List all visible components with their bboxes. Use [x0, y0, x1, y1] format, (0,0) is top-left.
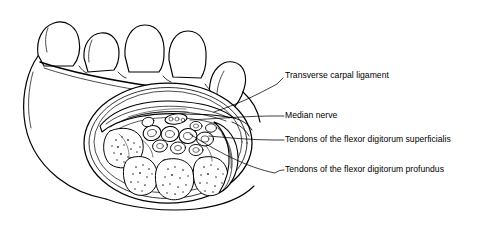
carpal-tunnel-figure: Transverse carpal ligament Median nerve … — [0, 0, 502, 229]
finger-3 — [125, 25, 164, 72]
carpal-bone-1 — [123, 156, 157, 195]
label-tendons-flexor-digitorum-profundus: Tendons of the flexor digitorum profundu… — [285, 165, 444, 174]
carpal-bone-group — [123, 156, 227, 199]
label-tendons-flexor-digitorum-superficialis: Tendons of the flexor digitorum superfic… — [285, 135, 451, 144]
finger-4 — [169, 31, 206, 78]
fdp-tendon-2 — [190, 121, 202, 130]
carpal-cross-section — [84, 83, 252, 203]
finger-2 — [84, 33, 119, 72]
label-median-nerve: Median nerve — [285, 111, 337, 120]
ulnar-border — [243, 92, 260, 122]
finger-1 — [38, 22, 80, 66]
label-transverse-carpal-ligament: Transverse carpal ligament — [285, 71, 389, 80]
fds-tendon-7 — [189, 144, 203, 155]
anatomy-illustration — [0, 0, 502, 229]
fdp-tendon-3 — [206, 124, 217, 132]
